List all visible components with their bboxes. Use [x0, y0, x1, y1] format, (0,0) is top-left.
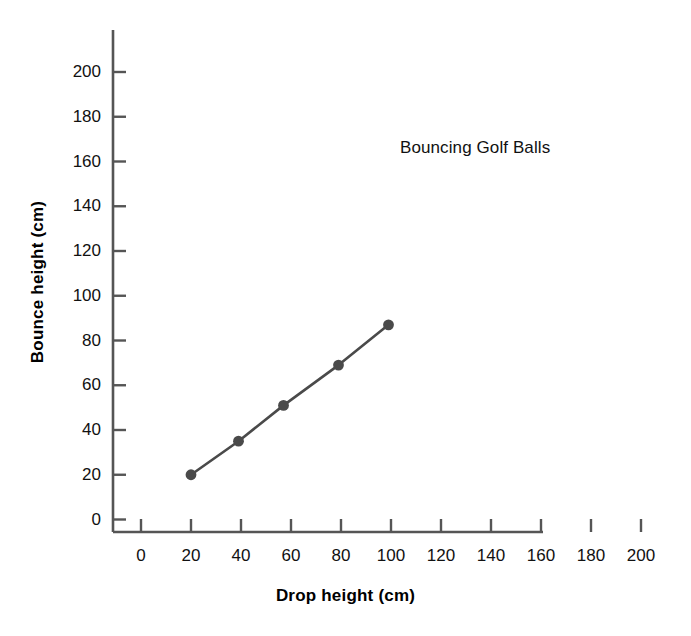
data-point-marker — [186, 469, 197, 480]
x-tick-label: 40 — [232, 546, 251, 566]
y-tick-label: 100 — [0, 286, 101, 306]
y-tick-label: 180 — [0, 107, 101, 127]
x-tick-label: 0 — [136, 546, 145, 566]
y-tick-label: 160 — [0, 152, 101, 172]
data-point-marker — [383, 319, 394, 330]
x-tick-label: 160 — [527, 546, 555, 566]
x-tick-label: 200 — [627, 546, 655, 566]
axes — [113, 30, 543, 532]
y-tick-label: 120 — [0, 241, 101, 261]
y-axis-ticks — [113, 72, 126, 520]
y-tick-label: 0 — [0, 510, 101, 530]
data-series — [186, 319, 394, 480]
plot-area — [0, 0, 691, 636]
series-line — [191, 325, 389, 475]
chart-title: Bouncing Golf Balls — [400, 138, 550, 158]
x-tick-label: 180 — [577, 546, 605, 566]
y-tick-label: 80 — [0, 331, 101, 351]
x-tick-label: 140 — [477, 546, 505, 566]
x-tick-label: 60 — [282, 546, 301, 566]
data-point-marker — [333, 360, 344, 371]
data-point-marker — [278, 400, 289, 411]
data-point-marker — [233, 436, 244, 447]
x-tick-label: 100 — [377, 546, 405, 566]
x-tick-label: 20 — [182, 546, 201, 566]
x-axis-ticks — [141, 519, 641, 532]
y-tick-label: 140 — [0, 196, 101, 216]
x-tick-label: 120 — [427, 546, 455, 566]
chart-figure: Bouncing Golf Balls Drop height (cm) Bou… — [0, 0, 691, 636]
y-tick-label: 60 — [0, 375, 101, 395]
x-tick-label: 80 — [332, 546, 351, 566]
x-axis-title: Drop height (cm) — [0, 586, 691, 606]
y-tick-label: 20 — [0, 465, 101, 485]
y-tick-label: 200 — [0, 62, 101, 82]
y-tick-label: 40 — [0, 420, 101, 440]
